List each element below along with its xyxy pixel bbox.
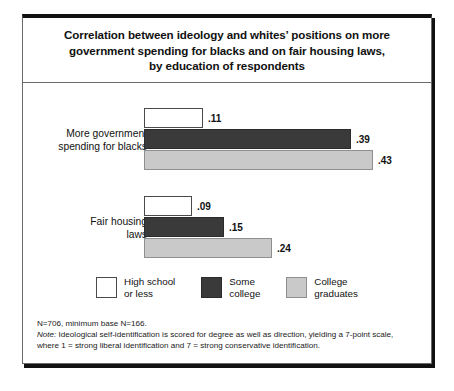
frame-shadow-bottom (24, 364, 434, 368)
legend-item-some-college: Some college (201, 276, 260, 299)
legend-label: High school or less (124, 276, 175, 299)
bar-some-college-spending (144, 129, 351, 149)
bar-value-label: .43 (378, 155, 392, 166)
bar-some-college-housing (144, 217, 224, 237)
bar-high-school-or-less-spending (144, 108, 203, 128)
chart-title-line-2: government spending for blacks and on fa… (39, 43, 415, 59)
legend-label: College graduates (314, 276, 358, 299)
bar-college-graduates-housing (144, 238, 272, 258)
bar-value-label: .09 (197, 201, 211, 212)
chart-legend: High school or less Some college College… (23, 276, 431, 299)
bar-value-label: .15 (229, 222, 243, 233)
legend-item-high-school-or-less: High school or less (96, 276, 175, 299)
legend-label: Some college (229, 276, 260, 299)
legend-item-college-graduates: College graduates (286, 276, 358, 299)
bar-value-label: .39 (356, 134, 370, 145)
category-label-0-line-2: spending for blacks (37, 141, 147, 154)
chart-footnote: N=706, minimum base N=166. Note: Ideolog… (37, 318, 417, 352)
legend-swatch-icon (286, 277, 307, 298)
footnote-base-line: N=706, minimum base N=166. (37, 318, 417, 329)
frame-shadow-right (432, 18, 435, 368)
footnote-note-text-1: Ideological self-identification is score… (56, 330, 393, 339)
bar-college-graduates-spending (144, 150, 373, 170)
category-label-0: More government spending for blacks (37, 128, 147, 153)
category-label-0-line-1: More government (37, 128, 147, 141)
bar-value-label: .24 (277, 243, 291, 254)
footnote-note-label: Note: (37, 330, 56, 339)
category-label-1-line-2: laws (37, 229, 147, 242)
footnote-note-line-1: Note: Ideological self-identification is… (37, 329, 417, 340)
category-label-1: Fair housing laws (37, 216, 147, 241)
chart-title: Correlation between ideology and whites’… (23, 18, 431, 83)
footnote-note-line-2: where 1 = strong liberal identification … (37, 340, 417, 351)
chart-title-line-3: by education of respondents (39, 58, 415, 74)
legend-swatch-icon (201, 277, 222, 298)
bar-high-school-or-less-housing (144, 196, 192, 216)
plot-area: More government spending for blacks .11 … (23, 90, 431, 292)
legend-swatch-icon (96, 277, 117, 298)
bar-value-label: .11 (208, 113, 221, 124)
figure-frame: Correlation between ideology and whites’… (22, 14, 432, 364)
chart-title-line-1: Correlation between ideology and whites’… (39, 27, 415, 43)
category-label-1-line-1: Fair housing (37, 216, 147, 229)
